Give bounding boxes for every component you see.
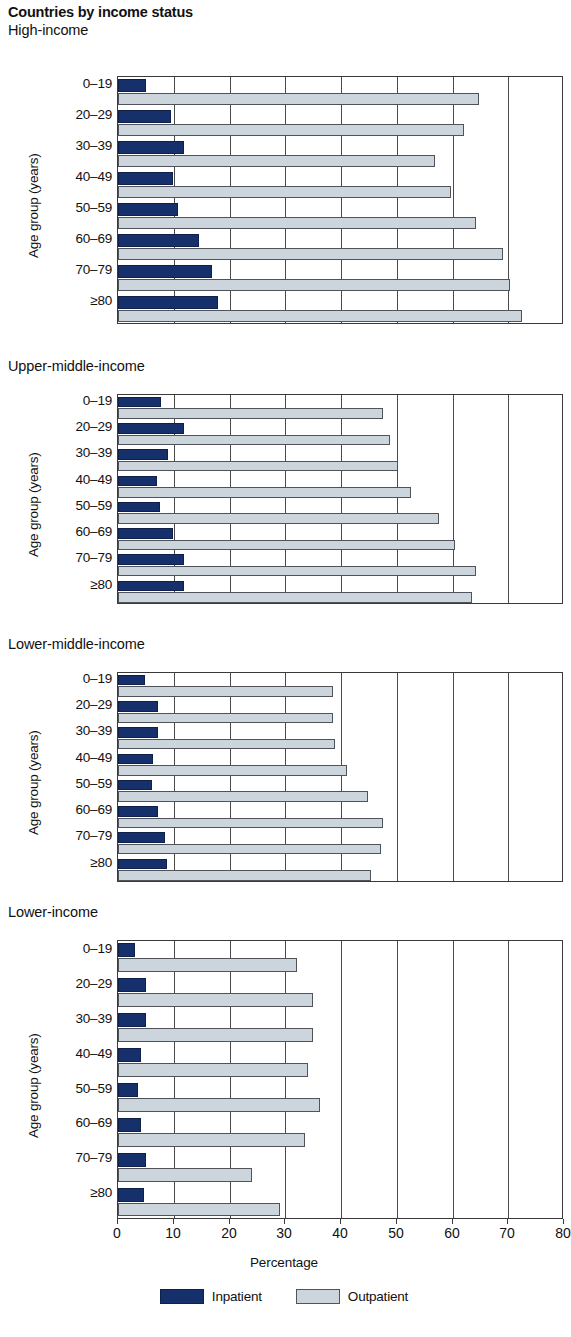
gridline bbox=[285, 941, 286, 1218]
x-tick-label: 60 bbox=[444, 1225, 460, 1241]
y-tick-label: 30–39 bbox=[0, 445, 112, 460]
bar-inpatient bbox=[118, 1118, 141, 1132]
bar-inpatient bbox=[118, 701, 158, 712]
bar-outpatient bbox=[118, 791, 368, 802]
y-tick-label: 70–79 bbox=[0, 828, 112, 843]
x-axis-tick bbox=[396, 1219, 397, 1224]
bar-inpatient bbox=[118, 528, 173, 539]
bar-outpatient bbox=[118, 739, 335, 750]
bar-inpatient bbox=[118, 1188, 144, 1202]
bar-outpatient bbox=[118, 248, 503, 260]
gridline bbox=[397, 941, 398, 1218]
gridline bbox=[397, 673, 398, 881]
plot-area bbox=[117, 76, 563, 324]
bar-outpatient bbox=[118, 844, 381, 855]
gridline bbox=[453, 941, 454, 1218]
bar-inpatient bbox=[118, 554, 184, 565]
bar-inpatient bbox=[118, 110, 171, 122]
bar-inpatient bbox=[118, 675, 145, 686]
gridline bbox=[341, 941, 342, 1218]
chart-legend: InpatientOutpatient bbox=[0, 1289, 568, 1304]
x-tick-label: 70 bbox=[499, 1225, 515, 1241]
bar-inpatient bbox=[118, 423, 184, 434]
bar-outpatient bbox=[118, 1028, 313, 1042]
y-tick-label: ≥80 bbox=[0, 577, 112, 592]
bar-outpatient bbox=[118, 1168, 252, 1182]
bar-outpatient bbox=[118, 1098, 320, 1112]
bar-outpatient bbox=[118, 217, 476, 229]
bar-inpatient bbox=[118, 502, 160, 513]
y-tick-label: 20–29 bbox=[0, 697, 112, 712]
y-tick-label: 30–39 bbox=[0, 1011, 112, 1026]
bar-outpatient bbox=[118, 155, 435, 167]
x-axis-tick bbox=[452, 1219, 453, 1224]
y-tick-label: 70–79 bbox=[0, 262, 112, 277]
x-tick-label: 20 bbox=[221, 1225, 237, 1241]
bar-outpatient bbox=[118, 310, 522, 322]
x-axis-tick bbox=[173, 1219, 174, 1224]
bar-inpatient bbox=[118, 859, 167, 870]
y-tick-label: 0–19 bbox=[0, 941, 112, 956]
y-tick-label: 40–49 bbox=[0, 750, 112, 765]
bar-outpatient bbox=[118, 958, 297, 972]
bar-outpatient bbox=[118, 540, 455, 551]
y-tick-label: 50–59 bbox=[0, 200, 112, 215]
bar-inpatient bbox=[118, 978, 146, 992]
bar-inpatient bbox=[118, 780, 152, 791]
y-tick-label: 20–29 bbox=[0, 976, 112, 991]
gridline bbox=[508, 941, 509, 1218]
x-tick-label: 0 bbox=[113, 1225, 121, 1241]
bar-inpatient bbox=[118, 754, 153, 765]
bar-outpatient bbox=[118, 461, 398, 472]
x-tick-label: 40 bbox=[332, 1225, 348, 1241]
y-tick-label: 40–49 bbox=[0, 1046, 112, 1061]
bar-outpatient bbox=[118, 487, 411, 498]
bar-inpatient bbox=[118, 727, 158, 738]
y-tick-label: 30–39 bbox=[0, 138, 112, 153]
x-axis-tick bbox=[117, 1219, 118, 1224]
y-tick-label: 20–29 bbox=[0, 419, 112, 434]
gridline bbox=[508, 673, 509, 881]
figure-title: Countries by income status bbox=[8, 4, 193, 20]
panel-title: Lower-middle-income bbox=[8, 636, 145, 652]
y-tick-label: 60–69 bbox=[0, 802, 112, 817]
bar-inpatient bbox=[118, 832, 165, 843]
bar-inpatient bbox=[118, 203, 178, 215]
y-tick-label: 50–59 bbox=[0, 498, 112, 513]
bar-outpatient bbox=[118, 93, 479, 105]
plot-area bbox=[117, 394, 563, 604]
bar-outpatient bbox=[118, 566, 476, 577]
bar-inpatient bbox=[118, 296, 218, 308]
bar-inpatient bbox=[118, 1013, 146, 1027]
bar-outpatient bbox=[118, 818, 383, 829]
y-tick-label: 0–19 bbox=[0, 393, 112, 408]
bar-outpatient bbox=[118, 124, 464, 136]
bar-outpatient bbox=[118, 408, 383, 419]
y-tick-label: 20–29 bbox=[0, 107, 112, 122]
y-tick-label: 70–79 bbox=[0, 1150, 112, 1165]
y-tick-label: 60–69 bbox=[0, 231, 112, 246]
bar-inpatient bbox=[118, 1048, 141, 1062]
bar-inpatient bbox=[118, 1083, 138, 1097]
bar-outpatient bbox=[118, 686, 333, 697]
gridline bbox=[453, 673, 454, 881]
bar-inpatient bbox=[118, 476, 157, 487]
bar-outpatient bbox=[118, 435, 390, 446]
y-tick-label: 50–59 bbox=[0, 1081, 112, 1096]
bar-inpatient bbox=[118, 172, 173, 184]
plot-area bbox=[117, 940, 563, 1219]
bar-inpatient bbox=[118, 943, 135, 957]
gridline bbox=[508, 395, 509, 603]
bar-outpatient bbox=[118, 1203, 280, 1217]
bar-inpatient bbox=[118, 79, 146, 91]
bar-inpatient bbox=[118, 581, 184, 592]
bar-outpatient bbox=[118, 1063, 308, 1077]
bar-outpatient bbox=[118, 592, 472, 603]
x-tick-label: 30 bbox=[276, 1225, 292, 1241]
y-tick-label: 60–69 bbox=[0, 524, 112, 539]
bar-inpatient bbox=[118, 1153, 146, 1167]
y-tick-label: ≥80 bbox=[0, 1185, 112, 1200]
bar-outpatient bbox=[118, 1133, 305, 1147]
bar-inpatient bbox=[118, 234, 199, 246]
